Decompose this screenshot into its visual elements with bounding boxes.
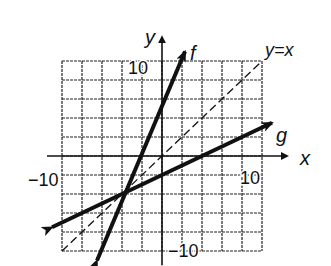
tick-label-y-pos: 10 [128,58,148,78]
x-axis-label: x [299,147,311,169]
graph: −101010−10xyfgy=x [0,0,331,266]
label-g: g [276,124,287,146]
y-axis-label: y [143,26,156,48]
tick-label-x-neg: −10 [28,170,59,190]
tick-label-y-neg: −10 [168,241,199,261]
tick-label-x-pos: 10 [240,168,260,188]
label-y-eq-x: y=x [263,40,295,60]
